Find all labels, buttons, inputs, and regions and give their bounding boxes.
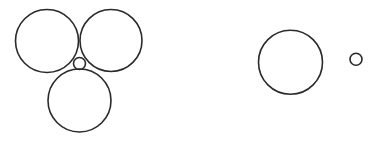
cluster-left: [16, 10, 143, 133]
circle-right-small-icon: [350, 53, 362, 65]
circle-top-left-icon: [16, 10, 79, 73]
circle-right-large-icon: [259, 30, 323, 94]
pair-right: [259, 30, 363, 94]
circle-top-right-icon: [80, 10, 142, 72]
circle-center-small-icon: [74, 58, 86, 70]
circles-diagram: [0, 0, 376, 142]
circle-bottom-icon: [48, 69, 111, 132]
